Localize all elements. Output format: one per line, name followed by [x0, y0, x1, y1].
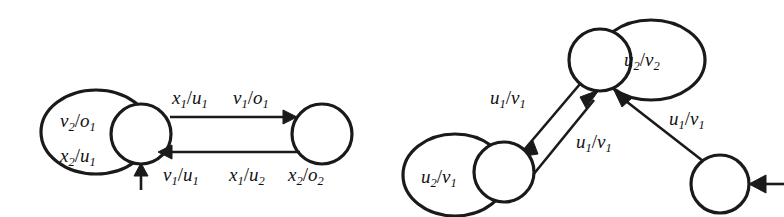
label-left-top-1: x1/u1	[171, 87, 208, 111]
figure-canvas: v2/o1 x2/u1 x1/u1 v1/o1 v1/u1 x1/u2 x2/o…	[0, 0, 784, 217]
state-node-right-left[interactable]	[474, 142, 534, 202]
label-left-top-2: v1/o1	[233, 87, 269, 111]
label-right-edge-upper-left: u1/v1	[490, 87, 526, 111]
fsm-diagram-svg: v2/o1 x2/u1 x1/u1 v1/o1 v1/u1 x1/u2 x2/o…	[0, 0, 784, 217]
edge-rtop-to-rleft-line	[524, 84, 580, 150]
state-node-right-right[interactable]	[691, 155, 749, 213]
state-node-left-1[interactable]	[111, 104, 171, 164]
label-right-edge-right: u1/v1	[669, 108, 705, 132]
right-initial-arrow-head	[749, 175, 766, 193]
label-left-bottom-2: x1/u2	[228, 164, 265, 188]
label-right-edge-middle: u1/v1	[576, 131, 612, 155]
state-node-right-top[interactable]	[569, 29, 631, 91]
label-left-bottom-3: x2/o2	[287, 164, 324, 188]
state-node-left-2[interactable]	[292, 104, 352, 164]
label-left-bottom-1: v1/u1	[163, 164, 199, 188]
right-automaton: u2/v2 u2/v1 u1/v1 u1/v1 u1/v1	[403, 20, 784, 216]
left-automaton: v2/o1 x2/u1 x1/u1 v1/o1 v1/u1 x1/u2 x2/o…	[41, 87, 352, 190]
